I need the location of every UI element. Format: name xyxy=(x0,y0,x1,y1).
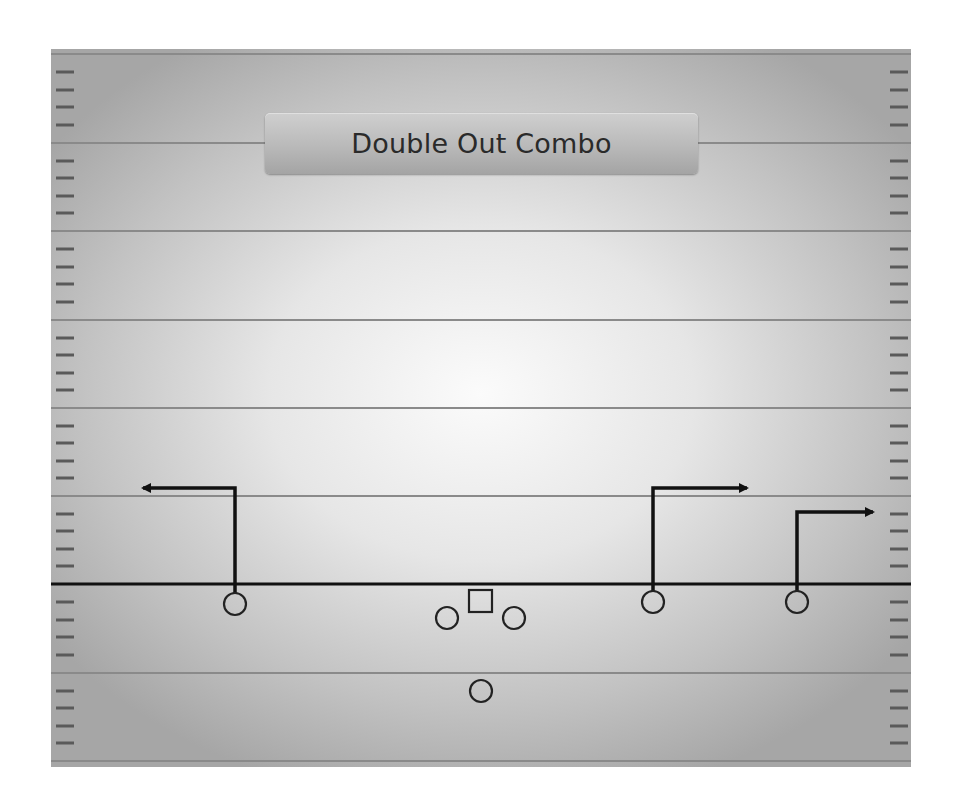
left-out-route-arrow xyxy=(143,488,235,593)
left-guard-circle-icon xyxy=(436,607,458,629)
football-field: Double Out Combo xyxy=(51,49,911,767)
right-outside-out-route-arrow xyxy=(797,512,873,591)
right-outside-receiver-circle-icon xyxy=(786,591,808,613)
play-title: Double Out Combo xyxy=(351,128,611,159)
yard-lines xyxy=(51,143,911,673)
right-slot-receiver-circle-icon xyxy=(642,591,664,613)
quarterback-circle-icon xyxy=(470,680,492,702)
left-receiver-circle-icon xyxy=(224,593,246,615)
play-title-box: Double Out Combo xyxy=(265,113,698,174)
right-guard-circle-icon xyxy=(503,607,525,629)
center-square-icon xyxy=(469,590,492,612)
right-slot-out-route-arrow xyxy=(653,488,747,591)
